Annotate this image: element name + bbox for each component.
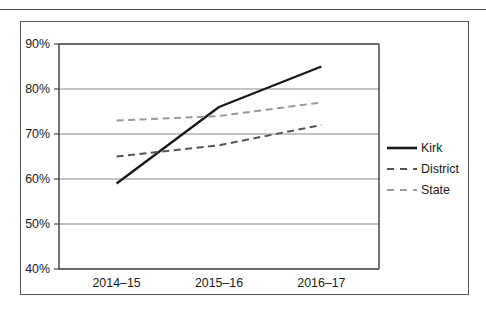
- top-divider-rule: [0, 9, 486, 10]
- x-tick-label-1: 2015–16: [195, 276, 243, 290]
- data-series-group: [117, 67, 322, 184]
- legend-label-kirk: Kirk: [421, 141, 443, 155]
- series-line-kirk: [117, 67, 322, 184]
- y-tick-label-80: 80%: [25, 82, 50, 96]
- chart-legend: KirkDistrictState: [387, 141, 459, 197]
- axes-group: [54, 44, 379, 269]
- series-line-district: [117, 125, 322, 157]
- chart-figure-frame: 40%50%60%70%80%90% 2014–152015–162016–17…: [20, 21, 469, 295]
- line-chart-svg: 40%50%60%70%80%90% 2014–152015–162016–17…: [21, 22, 470, 296]
- y-tick-label-40: 40%: [25, 262, 50, 276]
- gridlines-group: [59, 89, 379, 224]
- x-tick-label-0: 2014–15: [92, 276, 140, 290]
- y-tick-label-60: 60%: [25, 172, 50, 186]
- legend-label-district: District: [421, 162, 459, 176]
- legend-label-state: State: [421, 183, 450, 197]
- series-line-state: [117, 103, 322, 121]
- y-tick-labels: 40%50%60%70%80%90%: [25, 37, 50, 276]
- y-tick-label-70: 70%: [25, 127, 50, 141]
- x-tick-labels: 2014–152015–162016–17: [92, 276, 345, 290]
- chart-canvas: 40%50%60%70%80%90% 2014–152015–162016–17…: [21, 22, 470, 296]
- chart-page: 40%50%60%70%80%90% 2014–152015–162016–17…: [0, 0, 486, 315]
- x-tick-label-2: 2016–17: [297, 276, 345, 290]
- y-tick-label-90: 90%: [25, 37, 50, 51]
- y-tick-label-50: 50%: [25, 217, 50, 231]
